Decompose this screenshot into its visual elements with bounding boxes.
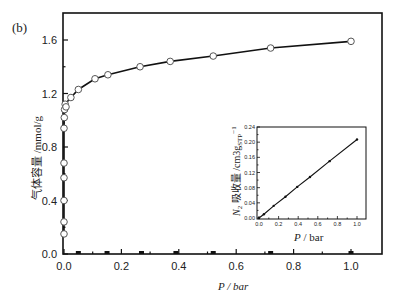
inset-y-tick-label: 0.04 xyxy=(244,200,255,206)
inset-data-point xyxy=(284,196,286,198)
x-axis-label: P / bar xyxy=(217,280,249,292)
data-point-square xyxy=(173,251,178,254)
inset-plot-area: 0.00.20.40.60.81.00.000.040.080.120.160.… xyxy=(244,124,366,227)
y-tick-label: 0.0 xyxy=(42,248,57,260)
data-point-circle xyxy=(92,75,99,82)
data-point-square xyxy=(76,251,81,254)
x-tick-label: 0.6 xyxy=(229,260,244,272)
x-tick-label: 0.8 xyxy=(286,260,301,272)
data-point-square xyxy=(105,251,110,254)
data-point-square xyxy=(349,251,354,254)
inset-x-tick-label: 0.6 xyxy=(314,221,322,227)
data-point-circle xyxy=(61,125,68,132)
inset-data-point xyxy=(356,138,358,140)
data-point-circle xyxy=(61,231,68,238)
inset-data-point xyxy=(258,217,260,219)
chart-canvas: 0.00.20.40.60.81.00.00.40.81.21.6 0.00.2… xyxy=(0,0,395,304)
data-point-circle xyxy=(61,114,68,121)
y-tick-label: 0.4 xyxy=(42,195,57,207)
inset-y-tick-label: 0.20 xyxy=(244,139,255,145)
data-point-circle xyxy=(75,86,82,93)
data-point-square xyxy=(139,251,144,254)
inset-data-point xyxy=(296,186,298,188)
data-point-circle xyxy=(167,58,174,65)
inset-y-tick-label: 0.16 xyxy=(244,154,255,160)
data-point-circle xyxy=(68,94,75,101)
inset-y-tick-label: 0.08 xyxy=(244,185,255,191)
data-point-circle xyxy=(267,45,274,52)
panel-label: (b) xyxy=(12,20,27,35)
inset-data-point xyxy=(273,205,275,207)
inset-y-tick-label: 0.24 xyxy=(244,124,255,130)
data-point-circle xyxy=(61,160,68,167)
inset-x-tick-label: 0.4 xyxy=(294,221,302,227)
x-tick-label: 1.0 xyxy=(343,260,358,272)
data-point-circle xyxy=(348,38,355,45)
data-point-square xyxy=(268,251,273,254)
data-point-square xyxy=(211,251,216,254)
data-point-circle xyxy=(137,63,144,70)
inset-y-tick-label: 0.00 xyxy=(244,215,255,221)
inset-y-axis-label: N2 吸收量 /cm3gSTP−1 xyxy=(230,126,244,217)
y-tick-label: 1.2 xyxy=(42,88,57,100)
x-tick-label: 0.0 xyxy=(56,260,71,272)
data-point-circle xyxy=(61,197,68,204)
inset-data-point xyxy=(328,160,330,162)
data-point-circle xyxy=(210,53,217,60)
y-tick-label: 1.6 xyxy=(42,34,57,46)
inset-x-tick-label: 0.8 xyxy=(334,221,342,227)
y-tick-label: 0.8 xyxy=(42,141,57,153)
inset-y-tick-label: 0.12 xyxy=(244,170,255,176)
inset-x-axis-label: P / bar xyxy=(293,231,324,243)
data-point-circle xyxy=(61,174,68,181)
data-point-circle xyxy=(105,71,112,78)
inset-x-tick-label: 0.0 xyxy=(255,221,263,227)
inset-x-tick-label: 0.2 xyxy=(275,221,283,227)
x-tick-label: 0.2 xyxy=(114,260,129,272)
data-point-circle xyxy=(63,104,70,111)
inset-data-point xyxy=(309,176,311,178)
inset-x-tick-label: 1.0 xyxy=(353,221,361,227)
x-tick-label: 0.4 xyxy=(171,260,186,272)
inset-data-point xyxy=(263,213,265,215)
data-point-circle xyxy=(61,219,68,226)
y-axis-label: 气体容量 /mmol/g xyxy=(30,115,43,200)
